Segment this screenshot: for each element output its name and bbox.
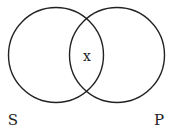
set-label-s: S	[8, 111, 18, 129]
intersection-label: x	[83, 48, 91, 64]
venn-diagram: x S P	[0, 0, 169, 131]
set-label-p: P	[154, 111, 164, 129]
